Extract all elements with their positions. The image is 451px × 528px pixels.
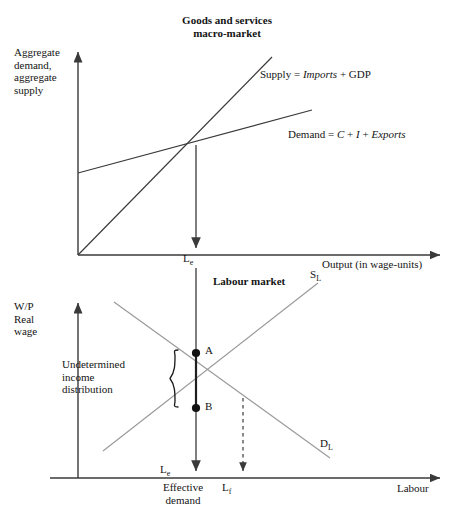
top-panel-y-axis-label: Aggregate demand, aggregate supply (14, 46, 84, 96)
top-panel-axes (78, 52, 440, 255)
bottom-panel-title: Labour market (213, 275, 285, 288)
demand-curve-label: Demand = C + I + Exports (288, 128, 406, 141)
top-panel-curves (78, 57, 312, 255)
demand-label-exports: Exports (371, 128, 405, 140)
point-b-label: B (205, 400, 212, 413)
demand-label-plus-1: + (344, 128, 356, 140)
point-a-marker (192, 349, 200, 357)
supply-curve-label: Supply = Imports + GDP (260, 68, 371, 81)
le-top-base: L (183, 252, 190, 264)
supply-label-part-1: Supply = (260, 68, 303, 80)
le-bottom-subscript: e (167, 469, 171, 478)
bottom-panel-y-axis-label: W/P Real wage (14, 300, 74, 338)
top-panel-equilibrium-tick-label: Le (183, 252, 193, 267)
labour-demand-curve-label: DL (320, 437, 333, 452)
dl-subscript: L (328, 443, 333, 452)
supply-curve (78, 57, 272, 255)
undetermined-income-distribution-label: Undetermined income distribution (62, 358, 157, 396)
top-panel-title: Goods and services macro-market (152, 14, 302, 39)
demand-label-part-1: Demand = (288, 128, 337, 140)
bottom-panel-x-axis-label: Labour (397, 482, 429, 495)
dl-base: D (320, 437, 328, 449)
lf-base: L (222, 481, 229, 493)
labour-supply-curve-label: SL (310, 268, 321, 283)
supply-label-imports: Imports (303, 68, 337, 80)
point-a-label: A (205, 344, 213, 357)
le-bottom-base: L (160, 463, 167, 475)
full-employment-tick-label: Lf (222, 481, 231, 496)
demand-label-plus-2: + (360, 128, 372, 140)
economics-diagram: Goods and services macro-market Aggregat… (0, 0, 451, 528)
effective-demand-caption: Effective demand (152, 481, 214, 506)
demand-curve (78, 110, 312, 173)
lf-subscript: f (229, 487, 232, 496)
le-top-subscript: e (190, 258, 194, 267)
sl-subscript: L (316, 274, 321, 283)
bottom-panel-effective-demand-tick-label: Le (160, 463, 170, 478)
supply-label-part-2: + GDP (337, 68, 371, 80)
point-b-marker (192, 404, 200, 412)
top-panel-x-axis-label: Output (in wage-units) (322, 258, 422, 271)
